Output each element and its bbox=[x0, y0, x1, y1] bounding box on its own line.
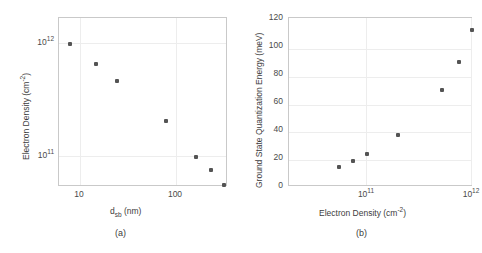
data-point bbox=[440, 88, 444, 92]
yaxis-title-a: Electron Density (cm-2) bbox=[22, 73, 31, 160]
caption-b: (b) bbox=[241, 228, 482, 238]
plot-area-b bbox=[288, 17, 472, 186]
panel-a: 1012 1011 10 100 Electron Density (cm-2)… bbox=[0, 0, 241, 253]
gridline-b-y-80 bbox=[289, 77, 471, 78]
data-point bbox=[396, 133, 400, 137]
panel-b: 120 100 80 60 40 20 0 1011 1012 Ground S… bbox=[241, 0, 482, 253]
gridline-b-y-40 bbox=[289, 132, 471, 133]
gridline-b-y-60 bbox=[289, 105, 471, 106]
gridline-b-x-1e11 bbox=[366, 18, 367, 185]
yaxis-title-b: Ground State Quantization Energy (meV) bbox=[255, 33, 264, 188]
data-point bbox=[365, 152, 369, 156]
xtick-label-b-1e12: 1012 bbox=[463, 190, 480, 199]
gridline-a-y-1e11 bbox=[59, 156, 226, 157]
ytick-label-b-120: 120 bbox=[241, 13, 283, 22]
data-point bbox=[222, 183, 226, 187]
gridline-a-y-1e12 bbox=[59, 43, 226, 44]
figure-container: 1012 1011 10 100 Electron Density (cm-2)… bbox=[0, 0, 482, 253]
xaxis-title-b: Electron Density (cm-2) bbox=[319, 209, 406, 218]
data-point bbox=[337, 165, 341, 169]
xaxis-title-a: dsb (nm) bbox=[110, 207, 141, 216]
gridline-b-y-20 bbox=[289, 160, 471, 161]
gridline-b-x-1e12 bbox=[471, 18, 472, 185]
data-point bbox=[470, 28, 474, 32]
data-point bbox=[351, 159, 355, 163]
gridline-a-x-100 bbox=[176, 18, 177, 185]
xtick-label-a-100: 100 bbox=[168, 190, 182, 199]
xtick-label-a-10: 10 bbox=[74, 190, 83, 199]
caption-a: (a) bbox=[0, 228, 241, 238]
plot-area-a bbox=[58, 17, 227, 186]
gridline-b-y-100 bbox=[289, 49, 471, 50]
data-point bbox=[209, 168, 213, 172]
data-point bbox=[68, 42, 72, 46]
gridline-a-x-10 bbox=[80, 18, 81, 185]
data-point bbox=[194, 155, 198, 159]
data-point bbox=[164, 119, 168, 123]
data-point bbox=[94, 62, 98, 66]
ytick-label-a-1e12: 1012 bbox=[0, 38, 54, 47]
data-point bbox=[115, 79, 119, 83]
data-point bbox=[457, 60, 461, 64]
xtick-label-b-1e11: 1011 bbox=[358, 190, 374, 199]
